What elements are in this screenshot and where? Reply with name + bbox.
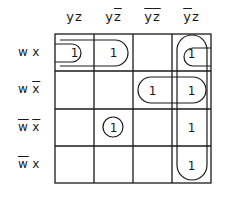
cell-wx-ybarzbar — [133, 34, 172, 71]
cell-wbarxbar-yz — [55, 109, 94, 146]
cell-wbarx-ybarzbar — [133, 146, 172, 183]
cell-wbarxbar-yzbar: 1 — [94, 109, 133, 146]
karnaugh-map: yz yz yz yz w x w x w x w x — [0, 0, 225, 202]
cell-wx-ybarz: 1 — [172, 35, 211, 72]
cell-wx-yzbar: 1 — [94, 34, 133, 71]
cell-wxbar-yz — [55, 71, 94, 108]
cell-wx-yz: 1 — [55, 34, 94, 71]
cell-wbarxbar-ybarz: 1 — [172, 109, 211, 146]
cell-wxbar-ybarzbar: 1 — [133, 72, 172, 109]
cell-wxbar-ybarz: 1 — [172, 72, 211, 109]
cell-wbarx-ybarz: 1 — [172, 147, 211, 184]
cell-wbarx-yz — [55, 146, 94, 183]
cell-wbarxbar-ybarzbar — [133, 109, 172, 146]
cell-wbarx-yzbar — [94, 146, 133, 183]
cell-wxbar-yzbar — [94, 71, 133, 108]
